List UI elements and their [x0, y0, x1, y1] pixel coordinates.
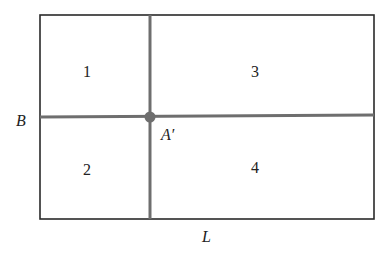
- region-3-label: 3: [251, 64, 259, 80]
- horizontal-divider-line-b: [40, 115, 374, 117]
- point-a-prime-label: A′: [161, 127, 174, 143]
- region-2-label: 2: [83, 162, 91, 178]
- line-b-label: B: [16, 113, 26, 129]
- line-l-label: L: [202, 229, 211, 245]
- region-1-label: 1: [83, 64, 91, 80]
- region-4-label: 4: [251, 160, 259, 176]
- point-a-prime-marker: [145, 112, 156, 123]
- diagram-canvas: [0, 0, 384, 265]
